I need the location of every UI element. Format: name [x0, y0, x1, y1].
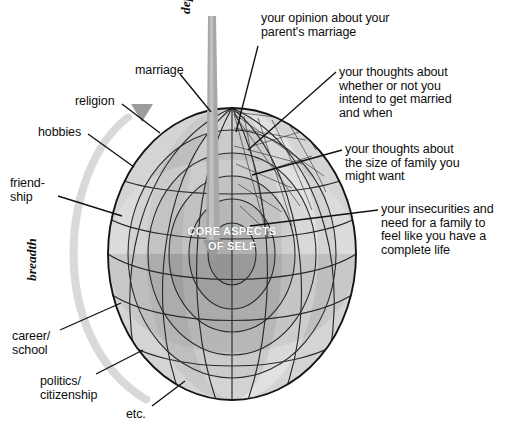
depth-axis-label: depth: [178, 0, 194, 14]
leader-friendship: [58, 196, 122, 216]
onion-sphere: [108, 108, 356, 400]
diagram-canvas: depth breadth CORE ASPECTS OF SELF marri…: [0, 0, 508, 439]
label-insecurities: your insecurities and need for a family …: [381, 203, 494, 257]
label-family-size: your thoughts about the size of family y…: [345, 143, 460, 184]
label-hobbies: hobbies: [38, 126, 81, 140]
leader-etc: [152, 381, 185, 406]
breadth-axis-label: breadth: [24, 238, 40, 281]
label-parents-marriage: your opinion about your parent's marriag…: [261, 12, 389, 39]
label-marriage: marriage: [135, 64, 184, 78]
label-friendship: friend- ship: [10, 177, 45, 204]
label-etc: etc.: [126, 408, 146, 422]
label-religion: religion: [75, 95, 115, 109]
label-intend-married: your thoughts about whether or not you i…: [339, 66, 452, 120]
leader-marriage: [180, 74, 211, 112]
label-politics-citizenship: politics/ citizenship: [40, 375, 97, 402]
label-career-school: career/ school: [12, 330, 50, 357]
core-aspects-of-self-label: CORE ASPECTS OF SELF: [168, 224, 296, 254]
